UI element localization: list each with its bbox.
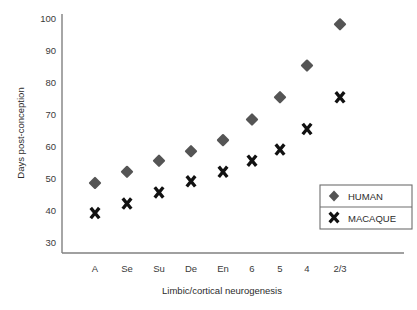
x-tick-labels: A Se Su De En 6 5 4 2/3	[92, 263, 347, 274]
y-tick-label: 80	[45, 77, 56, 88]
x-tick-label: 6	[249, 263, 254, 274]
y-tick-label: 70	[45, 109, 56, 120]
scatter-plot: 100 90 80 70 60 50 40 30 Days post-conce…	[0, 0, 417, 310]
y-tick-label: 30	[45, 237, 56, 248]
x-tick-label: A	[92, 263, 99, 274]
y-tick-label: 40	[45, 205, 56, 216]
x-tick-label: 4	[304, 263, 309, 274]
x-tick-label: En	[217, 263, 229, 274]
x-tick-label: 2/3	[333, 263, 346, 274]
chart-figure: 100 90 80 70 60 50 40 30 Days post-conce…	[0, 0, 417, 310]
y-tick-label: 50	[45, 173, 56, 184]
y-tick-label: 90	[45, 45, 56, 56]
x-tick-label: Se	[121, 263, 133, 274]
y-axis-title: Days post-conception	[15, 87, 26, 178]
legend-label-macaque: MACAQUE	[348, 213, 396, 224]
chart-legend: HUMAN MACAQUE	[320, 185, 412, 229]
x-tick-label: Su	[153, 263, 165, 274]
x-axis-title: Limbic/cortical neurogenesis	[162, 285, 282, 296]
x-tick-label: De	[185, 263, 197, 274]
x-tick-label: 5	[277, 263, 282, 274]
y-tick-label: 100	[40, 13, 56, 24]
y-tick-label: 60	[45, 141, 56, 152]
legend-label-human: HUMAN	[348, 191, 383, 202]
